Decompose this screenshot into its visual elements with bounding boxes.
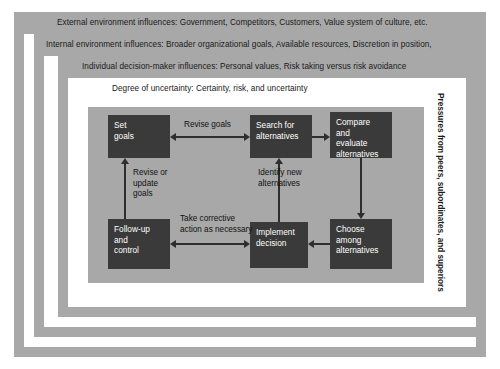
arrowhead-to-implement [308,240,314,248]
connector-choose-implement [314,243,330,245]
node-follow-up-and-control[interactable]: Follow-up and control [108,219,170,269]
connector-followup-setgoals [124,164,126,219]
connector-implement-followup [176,243,244,245]
node-search-for-alternatives[interactable]: Search for alternatives [250,115,312,158]
edge-label-revise-goals: Revise goals [184,120,231,131]
diagram-canvas: External environment influences: Governm… [0,0,500,369]
label-degree-of-uncertainty: Degree of uncertainty: Certainty, risk, … [112,84,308,93]
node-set-goals[interactable]: Set goals [108,115,170,158]
arrowhead-to-followup [170,240,176,248]
connector-compare-choose [360,158,362,213]
node-implement-decision[interactable]: Implement decision [250,222,308,268]
connector-setgoals-search [176,136,244,138]
node-compare-and-evaluate-alternatives[interactable]: Compare and evaluate alternatives [330,112,392,158]
label-internal-environment: Internal environment influences: Broader… [46,40,432,49]
edge-label-revise-or-update-goals: Revise or update goals [133,168,168,200]
label-external-environment: External environment influences: Governm… [57,18,428,27]
arrowhead-to-search-up [275,158,283,164]
label-individual-decision-maker: Individual decision-maker influences: Pe… [82,62,406,71]
connector-search-compare [312,136,324,138]
node-choose-among-alternatives[interactable]: Choose among alternatives [330,219,392,269]
arrowhead-to-setgoals-up [121,158,129,164]
edge-label-take-corrective-action: Take corrective action as necessary [180,214,252,235]
label-pressures-sidebar: Pressures from peers, subordinates, and … [432,92,448,292]
arrowhead-to-setgoals [170,133,176,141]
edge-label-identify-new-alternatives: Identify new alternatives [258,168,302,189]
label-pressures-text: Pressures from peers, subordinates, and … [436,93,445,292]
